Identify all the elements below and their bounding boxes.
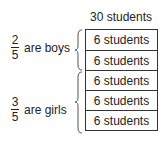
boys-brace-icon	[74, 29, 84, 71]
girls-text: are girls	[24, 103, 67, 117]
girls-fraction: 3 5	[11, 96, 19, 123]
boys-text: are boys	[24, 41, 70, 55]
bar-model: 6 students 6 students 6 students 6 stude…	[85, 29, 158, 131]
boys-label: 2 5 are boys	[11, 34, 70, 61]
denominator: 5	[12, 111, 19, 123]
bar-segment: 6 students	[86, 50, 157, 70]
girls-label: 3 5 are girls	[11, 96, 67, 123]
girls-brace-icon	[74, 71, 84, 134]
bar-segment: 6 students	[86, 90, 157, 110]
boys-fraction: 2 5	[11, 34, 19, 61]
bar-segment: 6 students	[86, 30, 157, 50]
numerator: 3	[12, 96, 19, 108]
bar-segment: 6 students	[86, 110, 157, 130]
total-label: 30 students	[85, 10, 157, 24]
denominator: 5	[12, 49, 19, 61]
bar-segment: 6 students	[86, 70, 157, 90]
numerator: 2	[12, 34, 19, 46]
